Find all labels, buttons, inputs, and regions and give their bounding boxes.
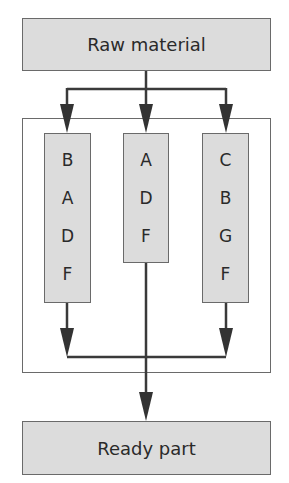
flow-arrows [0, 0, 289, 483]
